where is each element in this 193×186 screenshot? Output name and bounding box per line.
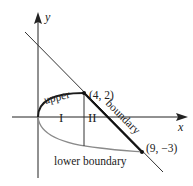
point-label-9-neg3: (9, −3) [146, 142, 178, 155]
region-I-label: I [59, 110, 63, 125]
region-diagram: y x (4, 2) (9, −3) upper boundary lower … [0, 0, 193, 186]
point-9-neg3 [140, 150, 144, 154]
y-axis-label: y [44, 10, 51, 24]
upper-label: upper [43, 88, 72, 107]
x-axis-label: x [177, 120, 184, 134]
lower-boundary-label: lower boundary [54, 155, 127, 168]
region-II-label: II [88, 110, 97, 125]
point-4-2 [82, 91, 86, 95]
